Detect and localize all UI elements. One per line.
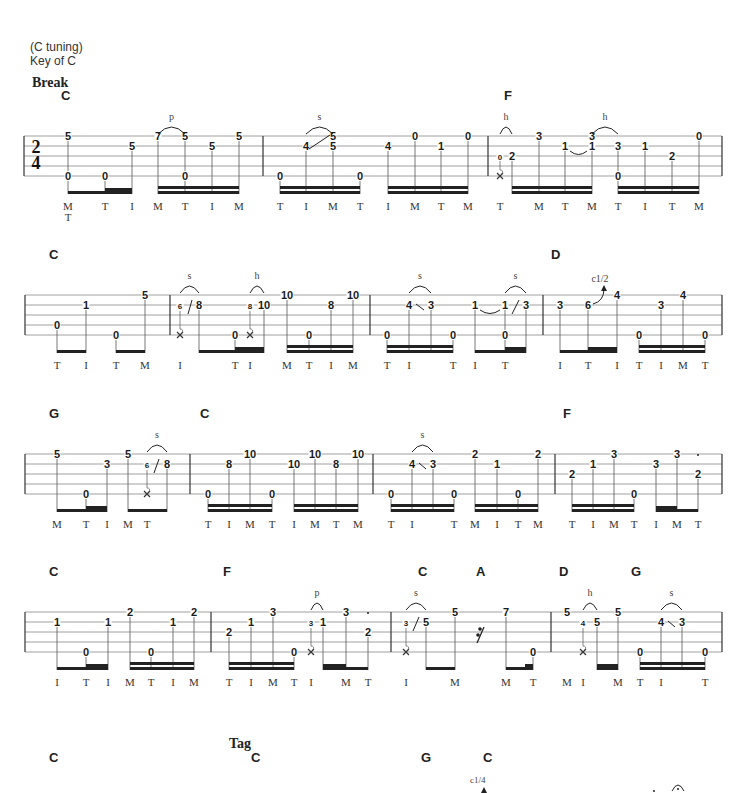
fingering-letter: I bbox=[495, 518, 499, 530]
hook-line bbox=[406, 628, 409, 650]
fret-number: 0 bbox=[148, 646, 154, 658]
beam-secondary bbox=[391, 504, 454, 507]
chord-symbol: D bbox=[559, 564, 568, 579]
fingering-letter: T bbox=[333, 518, 340, 530]
fret-number: 5 bbox=[452, 606, 458, 618]
fret-number: 2 bbox=[509, 150, 515, 162]
hook-line bbox=[180, 311, 183, 333]
technique-arc bbox=[406, 603, 426, 610]
fret-number: 4 bbox=[658, 616, 665, 628]
fret-number: 0 bbox=[502, 329, 508, 341]
beam bbox=[391, 509, 454, 512]
fret-number: 8 bbox=[248, 302, 253, 311]
fret-number: 0 bbox=[306, 329, 312, 341]
tag-symbols bbox=[0, 775, 745, 793]
fret-number: 5 bbox=[125, 448, 131, 460]
technique-label-s: s bbox=[421, 429, 425, 440]
chord-symbol: G bbox=[631, 564, 641, 579]
fret-number: 3 bbox=[404, 619, 409, 628]
fingering-letter: T bbox=[291, 676, 298, 688]
beam bbox=[639, 350, 705, 353]
beam-secondary bbox=[280, 186, 360, 189]
fingering-letter: T bbox=[102, 200, 109, 212]
beam bbox=[426, 667, 455, 670]
fingering-letter: I bbox=[249, 676, 253, 688]
fret-number: 0 bbox=[65, 170, 71, 182]
fingering-letter: M bbox=[694, 200, 704, 212]
hook-line bbox=[311, 628, 314, 650]
fret-number: 4 bbox=[303, 140, 310, 152]
fingering-letter: T bbox=[695, 518, 702, 530]
tab-staff-row4: 1012012213031323557054550430pshsITIMTIMT… bbox=[0, 582, 745, 692]
beam-secondary bbox=[639, 345, 705, 348]
fret-number: 2 bbox=[569, 468, 575, 480]
fingering-letter: M bbox=[410, 200, 420, 212]
technique-label-s: s bbox=[670, 587, 674, 598]
fret-number: 1 bbox=[438, 140, 444, 152]
fret-number: 5 bbox=[423, 616, 429, 628]
fret-number: 10 bbox=[352, 448, 364, 460]
fret-number: 3 bbox=[270, 606, 276, 618]
fingering-letter: I bbox=[404, 676, 408, 688]
beam bbox=[158, 191, 239, 194]
technique-arc bbox=[147, 445, 167, 452]
fingering-letter: M bbox=[587, 200, 597, 212]
fermata-dot bbox=[677, 788, 679, 790]
chord-symbol: F bbox=[223, 564, 231, 579]
beam bbox=[597, 667, 618, 670]
tag-chord-symbol: G bbox=[421, 750, 431, 765]
chord-symbol: F bbox=[563, 406, 571, 421]
fingering-letter: T bbox=[702, 359, 709, 371]
fret-number: 0 bbox=[388, 488, 394, 500]
fingering-letter: M bbox=[463, 200, 473, 212]
technique-arc bbox=[250, 286, 264, 293]
fret-number: 0 bbox=[637, 646, 643, 658]
beam-secondary bbox=[229, 662, 294, 665]
fret-number: 5 bbox=[54, 448, 60, 460]
beam-secondary bbox=[158, 186, 239, 189]
fret-number: 3 bbox=[674, 448, 680, 460]
technique-label-s: s bbox=[155, 429, 159, 440]
fret-number: 0 bbox=[291, 646, 297, 658]
technique-arc bbox=[661, 603, 682, 610]
beam-secondary bbox=[525, 664, 533, 667]
fingering-letter: M bbox=[282, 359, 292, 371]
technique-arc bbox=[500, 127, 512, 134]
technique-label-p: p bbox=[315, 587, 320, 598]
fret-number: 3 bbox=[536, 130, 542, 142]
fret-number: 2 bbox=[191, 606, 197, 618]
technique-arc bbox=[311, 603, 323, 610]
fingering-letter: I bbox=[248, 359, 252, 371]
technique-arc bbox=[409, 286, 431, 293]
fret-number: 6 bbox=[585, 299, 591, 311]
chord-symbol: C bbox=[49, 247, 58, 262]
fret-number: 1 bbox=[83, 299, 89, 311]
fingering-letter: I bbox=[581, 676, 585, 688]
fret-number: 0 bbox=[269, 488, 275, 500]
fingering-letter: I bbox=[473, 359, 477, 371]
technique-label-s: s bbox=[418, 270, 422, 281]
beam bbox=[294, 509, 358, 512]
fingering-letter: T bbox=[384, 359, 391, 371]
fret-number: 0 bbox=[384, 329, 390, 341]
fret-number: 4 bbox=[581, 619, 586, 628]
fret-number: 0 bbox=[83, 646, 89, 658]
staccato-dot bbox=[367, 612, 369, 614]
fret-number: 5 bbox=[564, 606, 570, 618]
tie-arc bbox=[570, 151, 587, 155]
tab-staff-row2: 0105680810100810043010133640340shssc1/2T… bbox=[0, 265, 745, 375]
fingering-letter: T bbox=[438, 200, 445, 212]
fingering-letter: I bbox=[227, 518, 231, 530]
fingering-letter: I bbox=[105, 518, 109, 530]
fingering-letter: M bbox=[470, 518, 480, 530]
beam bbox=[475, 350, 526, 353]
hook-line bbox=[250, 311, 253, 333]
beam-secondary bbox=[387, 345, 453, 348]
fingering-letter: T bbox=[365, 676, 372, 688]
chord-symbol: C bbox=[61, 88, 70, 103]
technique-label-p: p bbox=[169, 111, 174, 122]
fret-number: 0 bbox=[451, 488, 457, 500]
fingering-letter: T bbox=[615, 200, 622, 212]
fingering-letter: T bbox=[357, 200, 364, 212]
fret-number: 1 bbox=[170, 616, 176, 628]
